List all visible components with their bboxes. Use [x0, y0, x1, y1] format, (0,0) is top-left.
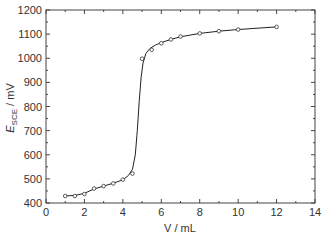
data-point	[83, 192, 87, 196]
data-point	[140, 57, 144, 61]
y-tick-label: 800	[24, 101, 42, 113]
y-tick-label: 1200	[18, 4, 42, 16]
y-axis-title: ESCE / mV	[4, 83, 19, 133]
y-tick-label: 400	[24, 197, 42, 209]
data-point	[121, 178, 125, 182]
x-axis-title: V / mL	[164, 222, 196, 234]
data-point	[275, 25, 279, 29]
y-axis-tick-labels: 400500600700800900100011001200	[18, 4, 42, 209]
data-point	[92, 187, 96, 191]
data-point	[150, 48, 154, 52]
x-axis-tick-labels: 02468101214	[43, 206, 321, 218]
data-point	[63, 194, 67, 198]
y-tick-label: 700	[24, 125, 42, 137]
data-point	[217, 29, 221, 33]
y-tick-label: 1000	[18, 52, 42, 64]
fitted-curve-line	[65, 27, 276, 196]
x-tick-label: 12	[270, 206, 282, 218]
data-point	[179, 35, 183, 39]
y-tick-label: 500	[24, 173, 42, 185]
x-tick-label: 4	[120, 206, 126, 218]
data-point	[236, 28, 240, 32]
data-point	[131, 172, 135, 176]
data-point	[73, 194, 77, 198]
data-point	[159, 41, 163, 45]
x-tick-label: 10	[232, 206, 244, 218]
x-tick-label: 8	[197, 206, 203, 218]
y-axis-ticks	[46, 10, 315, 203]
y-tick-label: 1100	[18, 28, 42, 40]
plot-frame	[46, 10, 315, 203]
x-axis-ticks	[46, 10, 315, 203]
x-tick-label: 2	[81, 206, 87, 218]
titration-chart: 02468101214 4005006007008009001000110012…	[0, 0, 327, 241]
data-point	[198, 32, 202, 36]
x-tick-label: 14	[309, 206, 321, 218]
x-tick-label: 0	[43, 206, 49, 218]
y-tick-label: 900	[24, 76, 42, 88]
x-tick-label: 6	[158, 206, 164, 218]
data-point	[102, 184, 106, 188]
data-point-markers	[63, 25, 278, 198]
y-tick-label: 600	[24, 149, 42, 161]
data-point	[111, 182, 115, 186]
data-point	[169, 38, 173, 42]
